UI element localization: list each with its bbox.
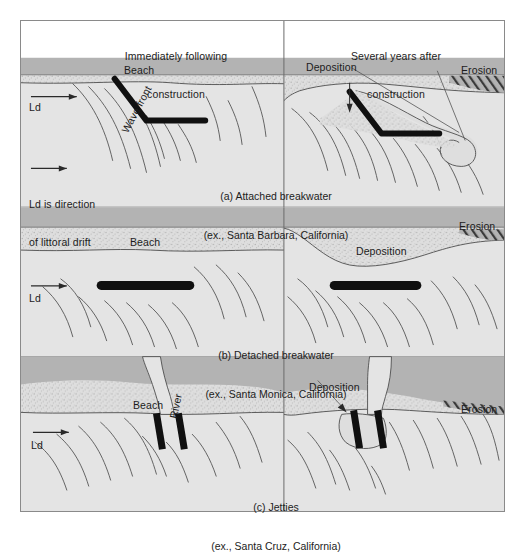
column-header-right-line2: construction: [301, 88, 491, 101]
detached-breakwater-left: [97, 281, 195, 290]
legend-ld-note: Ld is direction of littoral drift: [29, 173, 95, 273]
label-beach-b: Beach: [130, 236, 160, 249]
label-erosion-c: Erosion: [461, 403, 497, 416]
caption-b: (b) Detached breakwater (ex., Santa Moni…: [151, 323, 401, 427]
label-deposition-c: Deposition: [309, 381, 360, 394]
label-deposition-a: Deposition: [306, 61, 357, 74]
legend-ld-note-line2: of littoral drift: [29, 236, 95, 249]
caption-b-line1: (b) Detached breakwater: [151, 349, 401, 362]
caption-b-line2: (ex., Santa Monica, California): [151, 388, 401, 401]
column-header-left: Immediately following construction: [81, 25, 271, 125]
detached-breakwater-right: [330, 281, 422, 290]
label-beach-a: Beach: [124, 64, 154, 77]
column-header-left-line2: construction: [81, 88, 271, 101]
page-artifact-text: [2, 1, 54, 9]
caption-c-line1: (c) Jetties: [151, 501, 401, 514]
label-erosion-b: Erosion: [459, 220, 495, 233]
column-header-left-line1: Immediately following: [81, 50, 271, 63]
legend-ld-note-line1: Ld is direction: [29, 198, 95, 211]
caption-c-line2: (ex., Santa Cruz, California): [151, 540, 401, 553]
caption-a-line2: (ex., Santa Barbara, California): [151, 229, 401, 242]
label-ld-c: Ld: [31, 439, 43, 452]
label-ld-a: Ld: [29, 101, 41, 114]
label-deposition-b: Deposition: [356, 245, 407, 258]
label-erosion-a: Erosion: [461, 64, 497, 77]
label-beach-c: Beach: [133, 399, 163, 412]
figure-frame: Immediately following construction Sever…: [20, 20, 505, 512]
label-ld-b: Ld: [29, 292, 41, 305]
caption-a-line1: (a) Attached breakwater: [151, 190, 401, 203]
caption-c: (c) Jetties (ex., Santa Cruz, California…: [151, 475, 401, 556]
